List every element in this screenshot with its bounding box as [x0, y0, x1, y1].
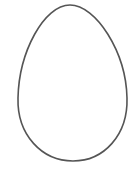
egg-drawing	[0, 0, 133, 173]
egg-outline	[18, 5, 127, 161]
egg-icon	[0, 0, 133, 173]
